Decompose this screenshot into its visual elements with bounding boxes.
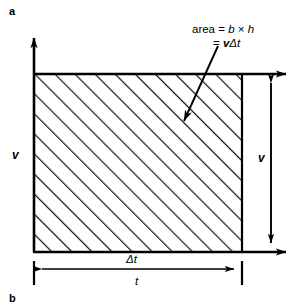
panel-label-a: a — [9, 6, 15, 17]
area-formula-equals: = — [213, 37, 223, 49]
area-formula-delta-t: Δt — [229, 37, 240, 49]
area-formula-times: × — [235, 23, 248, 35]
area-formula-line-2: = vΔt — [192, 36, 254, 50]
panel-label-b: b — [9, 293, 16, 304]
t-dimension-label: t — [135, 274, 138, 288]
figure-panel-a: a b area = b × h = vΔt v v Δt t — [0, 0, 302, 308]
area-formula-prefix: area = — [192, 23, 228, 35]
y-axis-label-v: v — [12, 148, 19, 163]
area-formula-h: h — [248, 23, 254, 35]
area-formula-callout: area = b × h = vΔt — [192, 22, 254, 51]
area-formula-line-1: area = b × h — [192, 23, 254, 35]
v-dimension-label: v — [258, 151, 265, 166]
delta-t-dimension-label: Δt — [126, 252, 137, 266]
velocity-time-area-diagram — [0, 0, 302, 308]
shaded-area-region — [35, 75, 242, 252]
